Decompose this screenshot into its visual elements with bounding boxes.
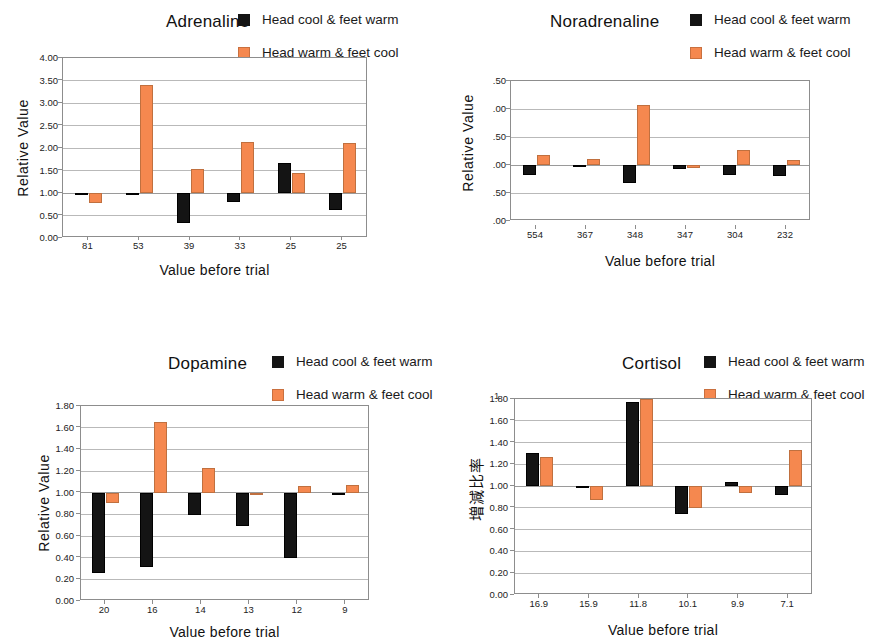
y-tick-mark: [58, 147, 62, 148]
gridline: [63, 80, 366, 81]
bar-head-cool-feet-warm[interactable]: [177, 193, 190, 223]
y-tick-label: 1.50: [40, 164, 59, 175]
gridline: [81, 449, 368, 450]
x-tick-mark: [290, 236, 291, 240]
bar-head-warm-feet-cool[interactable]: [191, 169, 204, 193]
x-tick-mark: [638, 594, 639, 598]
x-tick-mark: [585, 225, 586, 229]
y-tick-label: .50: [493, 187, 506, 198]
bar-head-cool-feet-warm[interactable]: [576, 486, 589, 488]
bar-head-cool-feet-warm[interactable]: [140, 493, 153, 568]
x-tick-label: 347: [677, 229, 693, 240]
y-tick-label: 0.00: [490, 589, 509, 600]
bar-head-cool-feet-warm[interactable]: [92, 493, 105, 573]
bar-head-warm-feet-cool[interactable]: [540, 457, 553, 486]
bar-head-warm-feet-cool[interactable]: [689, 486, 702, 508]
x-tick-mark: [737, 594, 738, 598]
bar-head-warm-feet-cool[interactable]: [250, 493, 263, 495]
bar-head-cool-feet-warm[interactable]: [332, 493, 345, 495]
y-tick-label: 0.80: [56, 508, 75, 519]
y-tick-mark: [510, 528, 514, 529]
x-tick-label: 9: [342, 604, 347, 615]
y-tick-mark: [510, 463, 514, 464]
bar-head-cool-feet-warm[interactable]: [623, 165, 636, 183]
bar-head-warm-feet-cool[interactable]: [89, 193, 102, 203]
y-tick-label: .00: [493, 103, 506, 114]
bar-head-warm-feet-cool[interactable]: [687, 165, 700, 168]
x-tick-mark: [538, 594, 539, 598]
x-tick-mark: [341, 236, 342, 240]
bar-head-warm-feet-cool[interactable]: [590, 486, 603, 500]
x-tick-mark: [152, 600, 153, 604]
y-tick-label: 3.50: [40, 74, 59, 85]
panel-dopamine: Dopamine Head cool & feet warm Head warm…: [0, 330, 446, 630]
x-tick-label: 367: [577, 229, 593, 240]
bar-head-warm-feet-cool[interactable]: [241, 142, 254, 193]
bar-head-cool-feet-warm[interactable]: [329, 193, 342, 210]
bar-head-warm-feet-cool[interactable]: [640, 399, 653, 486]
bar-head-cool-feet-warm[interactable]: [675, 486, 688, 514]
y-tick-mark: [506, 136, 510, 137]
bar-head-warm-feet-cool[interactable]: [737, 150, 750, 165]
y-tick-mark: [58, 169, 62, 170]
y-tick-label: 1.40: [490, 436, 509, 447]
cortisol-x-ticks: 16.915.911.810.19.97.1: [514, 598, 812, 614]
bar-head-cool-feet-warm[interactable]: [573, 165, 586, 167]
x-tick-mark: [685, 225, 686, 229]
bar-head-cool-feet-warm[interactable]: [227, 193, 240, 202]
bar-head-cool-feet-warm[interactable]: [126, 193, 139, 195]
bar-head-warm-feet-cool[interactable]: [140, 85, 153, 193]
panel-adrenaline: Adrenaline Head cool & feet warm Head wa…: [0, 0, 446, 300]
bar-head-warm-feet-cool[interactable]: [202, 468, 215, 493]
x-tick-label: 348: [627, 229, 643, 240]
bar-head-cool-feet-warm[interactable]: [773, 165, 786, 176]
bar-head-cool-feet-warm[interactable]: [523, 165, 536, 175]
baseline: [63, 193, 366, 194]
bar-head-warm-feet-cool[interactable]: [343, 143, 356, 193]
x-tick-mark: [239, 236, 240, 240]
bar-head-cool-feet-warm[interactable]: [236, 493, 249, 527]
bar-head-cool-feet-warm[interactable]: [775, 486, 788, 495]
y-tick-mark: [76, 491, 80, 492]
bar-head-warm-feet-cool[interactable]: [537, 155, 550, 165]
gridline: [81, 514, 368, 515]
bar-head-cool-feet-warm[interactable]: [673, 165, 686, 169]
gridline: [63, 215, 366, 216]
bar-head-warm-feet-cool[interactable]: [789, 450, 802, 486]
bar-head-cool-feet-warm[interactable]: [75, 193, 88, 195]
y-tick-label: 1.80: [56, 400, 75, 411]
x-tick-label: 20: [99, 604, 110, 615]
baseline: [511, 165, 809, 166]
bar-head-warm-feet-cool[interactable]: [346, 485, 359, 493]
bar-head-warm-feet-cool[interactable]: [298, 486, 311, 493]
bar-head-warm-feet-cool[interactable]: [292, 173, 305, 193]
bar-head-warm-feet-cool[interactable]: [637, 105, 650, 165]
bar-head-cool-feet-warm[interactable]: [626, 402, 639, 486]
x-tick-mark: [87, 236, 88, 240]
bar-head-cool-feet-warm[interactable]: [725, 482, 738, 486]
y-tick-mark: [76, 556, 80, 557]
y-tick-mark: [76, 426, 80, 427]
dopamine-plot: Relative Value 1.801.601.401.201.000.800…: [0, 330, 446, 630]
x-tick-label: 25: [336, 240, 347, 251]
bar-head-warm-feet-cool[interactable]: [106, 493, 119, 504]
bar-head-cool-feet-warm[interactable]: [723, 165, 736, 175]
bar-head-warm-feet-cool[interactable]: [587, 159, 600, 165]
x-tick-mark: [296, 600, 297, 604]
bar-head-cool-feet-warm[interactable]: [284, 493, 297, 558]
y-tick-mark: [76, 600, 80, 601]
gridline: [515, 442, 811, 443]
bar-head-cool-feet-warm[interactable]: [278, 163, 291, 193]
cortisol-x-axis-label: Value before trial: [508, 622, 818, 638]
bar-head-warm-feet-cool[interactable]: [154, 422, 167, 492]
bar-head-cool-feet-warm[interactable]: [188, 493, 201, 516]
cortisol-plot: 増減比率 1 1.801.601.401.201.000.800.600.400…: [446, 330, 893, 630]
bar-head-warm-feet-cool[interactable]: [739, 486, 752, 493]
bar-head-warm-feet-cool[interactable]: [787, 160, 800, 165]
gridline: [515, 551, 811, 552]
x-tick-mark: [635, 225, 636, 229]
x-tick-label: 53: [133, 240, 144, 251]
dopamine-y-ticks: 1.801.601.401.201.000.800.600.400.200.00: [40, 330, 74, 630]
bar-head-cool-feet-warm[interactable]: [526, 453, 539, 486]
x-tick-mark: [687, 594, 688, 598]
